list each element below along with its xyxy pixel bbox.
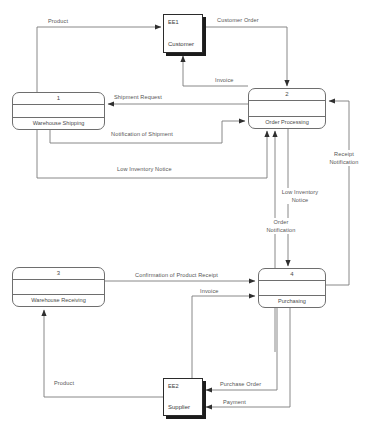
flow-label-order-notification: Order Notification (258, 218, 304, 234)
process-name: Purchasing (259, 295, 325, 307)
process-name: Warehouse Shipping (13, 117, 104, 129)
flow-label-product-top: Product (47, 18, 69, 24)
process-3-warehouse-receiving[interactable]: 3 Warehouse Receiving (12, 267, 105, 307)
flow-label-notification-of-shipment: Notification of Shipment (110, 131, 174, 137)
entity-name: Customer (168, 41, 194, 47)
flow-product-to-customer (37, 27, 161, 92)
flow-label-invoice-from-supplier: Invoice (199, 288, 220, 294)
flow-label-customer-order: Customer Order (216, 17, 260, 23)
process-4-purchasing[interactable]: 4 Purchasing (258, 268, 326, 308)
process-body (259, 281, 325, 295)
entity-code: EE1 (168, 19, 179, 25)
entity-name: Supplier (168, 404, 190, 410)
dfd-canvas: 1 Warehouse Shipping 2 Order Processing … (0, 0, 372, 423)
external-entity-ee2-supplier[interactable]: EE2 Supplier (163, 378, 203, 416)
process-number: 3 (13, 268, 104, 280)
flow-connectors (0, 0, 372, 423)
process-number: 4 (259, 269, 325, 281)
process-body (13, 280, 104, 294)
flow-label-invoice-to-customer: Invoice (214, 77, 235, 83)
flow-label-confirmation-of-product-receipt: Confirmation of Product Receipt (134, 272, 219, 278)
flow-label-low-inventory-notice-right: Low Inventory Notice (277, 188, 323, 204)
flow-label-low-inventory-notice-left: Low Inventory Notice (116, 166, 173, 172)
external-entity-ee1-customer[interactable]: EE1 Customer (163, 14, 203, 53)
flow-label-shipment-request: Shipment Request (113, 94, 163, 100)
process-2-order-processing[interactable]: 2 Order Processing (248, 88, 326, 129)
flow-label-payment: Payment (222, 399, 247, 405)
flow-purchase-order (206, 308, 277, 390)
process-name: Order Processing (249, 116, 325, 128)
process-1-warehouse-shipping[interactable]: 1 Warehouse Shipping (12, 92, 105, 130)
entity-code: EE2 (168, 383, 179, 389)
flow-label-purchase-order: Purchase Order (219, 381, 262, 387)
process-body (249, 101, 325, 116)
process-name: Warehouse Receiving (13, 294, 104, 306)
flow-label-receipt-notification: Receipt Notification (323, 150, 365, 166)
process-number: 2 (249, 89, 325, 101)
flow-label-product-bottom: Product (53, 380, 75, 386)
flow-receipt-notification (326, 101, 349, 285)
process-number: 1 (13, 93, 104, 105)
process-body (13, 105, 104, 117)
